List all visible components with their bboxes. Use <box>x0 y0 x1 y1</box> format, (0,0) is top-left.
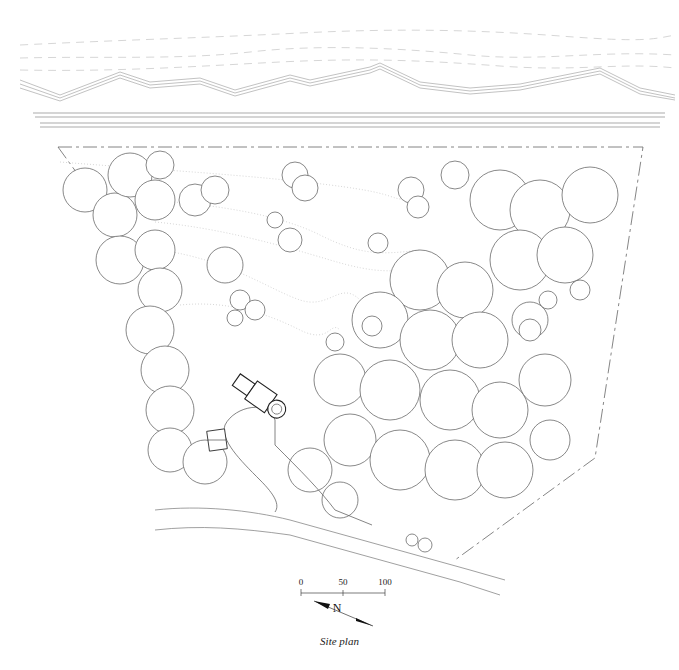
house <box>230 371 291 423</box>
scale-bar <box>301 589 385 596</box>
access-road <box>155 508 505 595</box>
tree-canopy <box>63 151 618 552</box>
roadway <box>33 113 665 127</box>
scale-tick-100: 100 <box>378 577 392 587</box>
north-label: N <box>333 601 342 616</box>
shoreline <box>20 63 675 101</box>
water-lines <box>20 30 675 70</box>
scale-tick-0: 0 <box>299 577 304 587</box>
north-arrow-icon <box>314 601 373 626</box>
site-plan-drawing <box>0 0 679 670</box>
garage <box>207 429 228 451</box>
scale-tick-50: 50 <box>339 577 348 587</box>
drawing-caption: Site plan <box>0 635 679 647</box>
